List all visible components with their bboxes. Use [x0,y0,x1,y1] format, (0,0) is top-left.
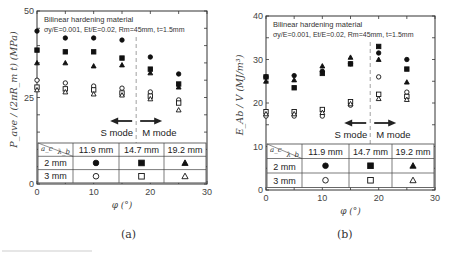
open-square-marker-icon [368,177,374,183]
arrow-right-icon [388,120,396,127]
open-circle-marker-icon [376,75,380,79]
filled-triangle-marker-icon [63,60,68,64]
y-tick-label: 10 [253,142,263,152]
y-tick-label: 0 [258,185,263,195]
filled-circle-marker-icon [176,72,180,76]
annotation-title: Bilinear hardening material [44,15,134,24]
open-square-marker-icon [176,101,180,105]
filled-triangle-marker-icon [320,64,325,68]
col-header-label: λ_b [286,151,300,159]
y-tick-label: 20 [253,98,263,108]
filled-circle-marker-icon [405,57,409,61]
caption-b: (b) [337,228,353,241]
filled-triangle-marker-icon [91,64,96,68]
annotation-title: Bilinear hardening material [273,20,363,29]
s-mode-label: S mode [334,129,367,140]
filled-square-marker-icon [91,50,95,54]
open-circle-marker-icon [35,78,39,82]
annotation-params: σy/E=0.001, Et/E=0.02, Rm=45mm, t=1.5mm [44,26,185,34]
plot-area: 010203002550φ (°)P_ave / (2πR_m t) (MPa)… [8,6,212,210]
legend-column-header: 19.2 mm [395,147,430,157]
filled-square-marker-icon [35,48,39,52]
x-tick-label: 10 [317,193,327,203]
filled-square-marker-icon [348,62,352,66]
caption-a: (a) [121,228,136,241]
plot-area: 0102030010203040φ (°)E_Ab / V (MJ/m³)Bil… [234,11,440,216]
x-tick-label: 30 [202,187,212,197]
legend-column-header: 14.7 mm [353,147,388,157]
open-circle-marker-icon [93,173,99,179]
filled-square-marker-icon [63,50,67,54]
chart-b-plot: 0102030010203040φ (°)E_Ab / V (MJ/m³)Bil… [226,0,452,257]
filled-triangle-marker-icon [404,80,409,84]
filled-triangle-marker-icon [120,63,125,67]
col-header-label: λ_b [57,148,71,156]
filled-circle-marker-icon [323,163,329,169]
filled-square-marker-icon [320,71,324,75]
legend-table: a_cλ_b11.9 mm14.7 mm19.2 mm2 mm3 mm [267,144,434,188]
filled-square-marker-icon [405,67,409,71]
x-tick-label: 20 [145,187,155,197]
filled-circle-marker-icon [35,29,39,33]
data-points [264,44,410,118]
filled-circle-marker-icon [376,51,380,55]
open-circle-marker-icon [405,90,409,94]
legend-row-label: 2 mm [44,158,67,168]
filled-triangle-marker-icon [376,57,381,61]
row-header-label: a_c [270,146,282,154]
filled-triangle-marker-icon [35,60,40,64]
open-circle-marker-icon [63,81,67,85]
filled-square-marker-icon [292,86,296,90]
chart-a-plot: 010203002550φ (°)P_ave / (2πR_m t) (MPa)… [0,0,226,257]
data-points [35,29,182,112]
y-axis-label: E_Ab / V (MJ/m³) [234,54,246,136]
x-axis-label: φ (°) [112,200,133,210]
row-header-label: a_c [41,145,53,153]
filled-triangle-marker-icon [292,78,297,82]
y-axis-label: P_ave / (2πR_m t) (MPa) [8,31,20,149]
x-tick-label: 0 [34,187,39,197]
y-tick-label: 40 [253,11,263,21]
legend-column-header: 14.7 mm [124,145,159,155]
legend-column-header: 11.9 mm [79,145,113,155]
y-tick-label: 0 [29,179,34,189]
filled-circle-marker-icon [120,38,124,42]
arrow-left-icon [344,120,352,127]
filled-circle-marker-icon [63,36,67,40]
arrow-left-icon [110,118,118,125]
open-circle-marker-icon [323,177,329,183]
filled-circle-marker-icon [93,160,99,166]
filled-square-marker-icon [139,160,145,166]
x-axis-label: φ (°) [340,206,361,216]
y-tick-label: 50 [24,6,34,16]
m-mode-label: M mode [376,129,410,140]
legend-column-header: 19.2 mm [167,145,202,155]
arrow-right-icon [154,118,162,125]
divider [2,250,92,252]
filled-square-marker-icon [120,56,124,60]
x-tick-label: 10 [89,187,99,197]
annotation-params: σy/E=0.001, Et/E=0.02, Rm=45mm, t=1.5mm [273,31,414,39]
open-triangle-marker-icon [176,108,181,112]
chart-panel-a: 010203002550φ (°)P_ave / (2πR_m t) (MPa)… [0,0,226,257]
x-tick-label: 30 [430,193,440,203]
chart-panel-b: 0102030010203040φ (°)E_Ab / V (MJ/m³)Bil… [226,0,452,257]
legend-table: a_cλ_b11.9 mm14.7 mm19.2 mm2 mm3 mm [38,143,206,183]
legend-row-label: 3 mm [273,176,296,186]
open-square-marker-icon [139,173,145,179]
filled-triangle-marker-icon [348,55,353,59]
filled-circle-marker-icon [148,55,152,59]
filled-circle-marker-icon [91,36,95,40]
y-tick-label: 25 [24,93,34,103]
legend-row-label: 3 mm [44,171,67,181]
filled-square-marker-icon [368,163,374,169]
open-circle-marker-icon [120,86,124,90]
legend-column-header: 11.9 mm [308,147,342,157]
legend-row-label: 2 mm [273,162,296,172]
x-tick-label: 0 [263,193,268,203]
x-tick-label: 20 [374,193,384,203]
y-tick-label: 30 [253,55,263,65]
s-mode-label: S mode [100,127,133,138]
m-mode-label: M mode [142,127,176,138]
filled-square-marker-icon [376,44,380,48]
